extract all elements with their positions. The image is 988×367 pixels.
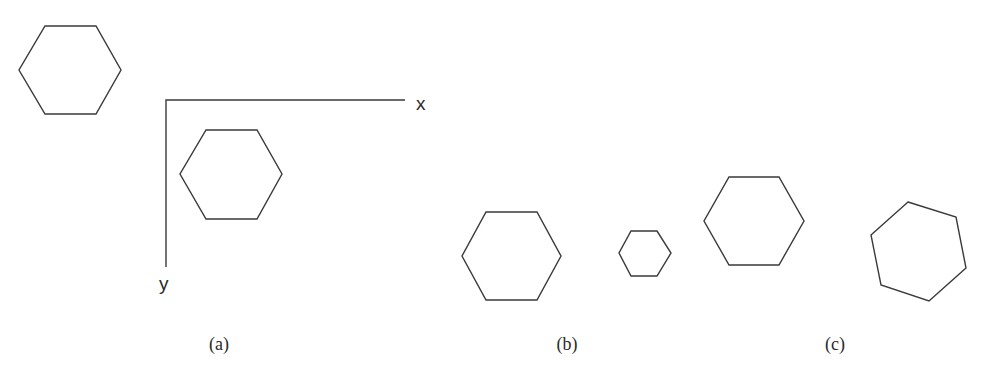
large-hexagon: [462, 212, 561, 300]
coordinate-axes: [166, 100, 405, 267]
rotated-hexagon: [871, 202, 966, 301]
unrotated-hexagon: [704, 177, 804, 265]
panel-a: x y (a): [19, 26, 426, 355]
original-hexagon: [19, 26, 121, 114]
panel-label-b: (b): [557, 334, 578, 355]
panel-label-c: (c): [825, 334, 845, 355]
transformation-figure: x y (a) (b) (c): [0, 0, 988, 367]
panel-label-a: (a): [209, 334, 229, 355]
y-axis-label: y: [159, 273, 169, 294]
translated-hexagon: [180, 130, 282, 219]
panel-b: (b): [462, 212, 671, 355]
scaled-small-hexagon: [619, 231, 671, 276]
x-axis-label: x: [416, 93, 426, 114]
panel-c: (c): [704, 177, 966, 355]
